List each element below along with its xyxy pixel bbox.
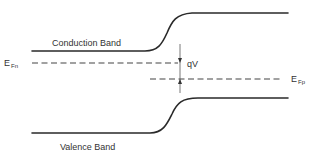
qv-label: qV — [187, 59, 198, 69]
band-diagram: Conduction Band Valence Band qV E Fn E F… — [0, 0, 318, 158]
fermi-p-main: E — [291, 74, 297, 84]
conduction-band-label: Conduction Band — [52, 38, 121, 48]
arrow-up-icon — [178, 79, 182, 84]
fermi-n-label: E Fn — [4, 58, 18, 69]
fermi-n-sub: Fn — [11, 63, 18, 69]
fermi-p-sub: Fp — [298, 79, 306, 85]
valence-band-curve — [32, 98, 288, 133]
arrow-down-icon — [178, 58, 182, 63]
valence-band-label: Valence Band — [60, 142, 115, 152]
fermi-p-label: E Fp — [291, 74, 306, 85]
fermi-n-main: E — [4, 58, 10, 68]
qv-arrow — [178, 44, 182, 93]
